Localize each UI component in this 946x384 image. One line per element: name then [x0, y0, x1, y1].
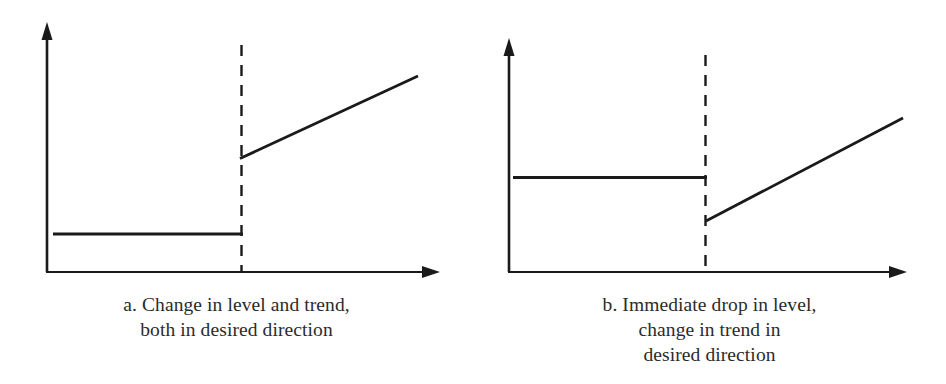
y-axis-a — [42, 22, 53, 272]
caption-a-line-1: a. Change in level and trend, — [0, 292, 473, 317]
intervention-series-a — [240, 76, 418, 159]
plot-a — [0, 0, 473, 290]
caption-b-line-2: change in trend in — [473, 317, 946, 342]
caption-b: b. Immediate drop in level, change in tr… — [473, 292, 946, 367]
plot-b — [473, 0, 946, 290]
y-axis-b — [504, 38, 515, 272]
caption-b-line-3: desired direction — [473, 342, 946, 367]
x-axis-b — [508, 266, 907, 278]
intervention-series-b — [706, 118, 903, 221]
figure-root: a. Change in level and trend, both in de… — [0, 0, 946, 384]
caption-b-line-1: b. Immediate drop in level, — [473, 292, 946, 317]
caption-a: a. Change in level and trend, both in de… — [0, 292, 473, 342]
panel-a: a. Change in level and trend, both in de… — [0, 0, 473, 384]
x-axis-a — [46, 266, 440, 278]
caption-a-line-2: both in desired direction — [0, 317, 473, 342]
panel-b: b. Immediate drop in level, change in tr… — [473, 0, 946, 384]
